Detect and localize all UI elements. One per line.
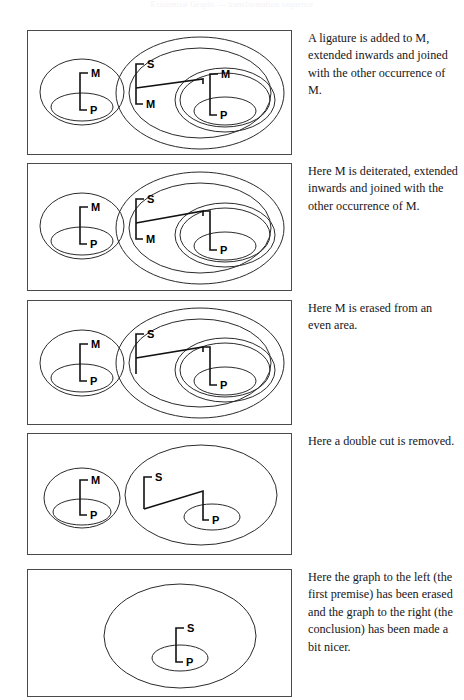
label-right-P-4: P — [212, 514, 219, 526]
ligature-to-P-right-3 — [203, 347, 217, 385]
cut-inner-left-2 — [51, 227, 113, 255]
label-left-M-4: M — [91, 474, 100, 486]
ligature-left-2 — [80, 207, 88, 244]
running-header: Existential Graphs — transformation sequ… — [0, 0, 464, 10]
figure-caption-5: Here the graph to the left (the first pr… — [308, 569, 458, 656]
figure-panel-4: M P S P — [27, 433, 292, 555]
label-right-S-5: S — [187, 622, 194, 634]
cut-inner-left-4 — [53, 499, 111, 525]
figure-panel-1: M P S M M P — [27, 30, 292, 155]
cut-outer-left-4 — [44, 468, 120, 528]
cut-outer-left-1 — [40, 59, 124, 125]
ligature-left-3 — [80, 344, 88, 381]
label-left-M-3: M — [91, 338, 100, 350]
label-right-S-2: S — [147, 193, 154, 205]
existential-graph-2: M P S M P — [28, 164, 291, 290]
cut-outer-right-2 — [116, 172, 284, 284]
ligature-join-right-2 — [136, 211, 203, 223]
ligature-S-right-4 — [144, 477, 152, 509]
figure-panel-5: S P — [27, 569, 292, 697]
existential-graph-4: M P S P — [28, 434, 291, 554]
existential-graph-3: M P S P — [28, 301, 291, 424]
ligature-join-right-1 — [136, 79, 203, 88]
label-right-S-4: S — [155, 471, 162, 483]
figure-panel-3: M P S P — [27, 300, 292, 425]
label-left-P-4: P — [90, 509, 97, 521]
label-right-M-inner-1: M — [221, 68, 230, 80]
label-right-M-lower-2: M — [146, 233, 155, 245]
cut-double-outer-right-3 — [175, 338, 275, 402]
cut-outer-right-1 — [116, 37, 284, 149]
cut-outer-left-2 — [40, 193, 124, 259]
figure-caption-1: A ligature is added to M, extended inwar… — [308, 30, 458, 100]
label-right-S-1: S — [147, 58, 154, 70]
figure-panel-2: M P S M P — [27, 163, 292, 291]
figure-caption-3: Here M is erased from an even area. — [308, 300, 458, 335]
label-left-P-3: P — [90, 375, 97, 387]
label-right-P-1: P — [220, 109, 227, 121]
ligature-S-M-right-2 — [136, 199, 144, 239]
ligature-left-1 — [80, 73, 88, 110]
label-right-M-lower-1: M — [146, 98, 155, 110]
label-right-S-3: S — [147, 328, 154, 340]
label-right-P-3: P — [220, 379, 227, 391]
ligature-S-M-right-1 — [136, 64, 144, 104]
cut-outer-right-4 — [125, 445, 277, 545]
label-right-P-5: P — [186, 656, 193, 668]
ligature-M-P-right-1 — [210, 74, 218, 115]
figure-caption-4: Here a double cut is removed. — [308, 433, 458, 450]
label-left-M-2: M — [91, 201, 100, 213]
ligature-M-P-right-2 — [203, 211, 217, 250]
label-left-P-1: P — [90, 104, 97, 116]
existential-graph-5: S P — [28, 570, 291, 696]
cut-inner-left-3 — [51, 364, 113, 392]
cut-outer-right-5 — [104, 584, 256, 688]
existential-graph-1: M P S M M P — [28, 31, 291, 154]
ligature-left-4 — [80, 480, 88, 515]
cut-outer-right-3 — [116, 308, 284, 418]
cut-outer-left-3 — [40, 330, 124, 396]
label-right-P-2: P — [220, 244, 227, 256]
cut-P-right-5 — [152, 645, 208, 671]
cut-inner-left-1 — [51, 93, 113, 121]
figure-caption-2: Here M is deiterated, extended inwards a… — [308, 163, 458, 215]
label-left-M-1: M — [91, 67, 100, 79]
ligature-join-right-3 — [136, 347, 203, 358]
label-left-P-2: P — [90, 238, 97, 250]
